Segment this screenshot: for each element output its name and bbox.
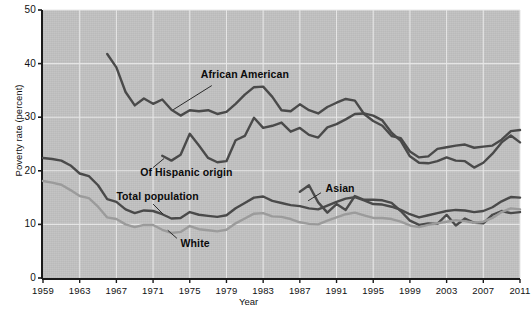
x-axis-title: Year — [239, 296, 258, 307]
y-tick-0: 0 — [2, 272, 36, 283]
series-lines — [43, 54, 520, 233]
series-label-white: White — [181, 237, 210, 249]
series-label-asian: Asian — [326, 182, 355, 194]
chart-canvas — [0, 0, 531, 315]
x-tick-2011: 2011 — [498, 285, 531, 296]
series-label-total-population: Total population — [116, 190, 198, 202]
y-axis-title: Poverty rate (percent) — [13, 66, 24, 196]
y-tick-50: 50 — [2, 4, 36, 15]
poverty-rate-chart: 01020304050 1959196319671971197519791983… — [0, 0, 531, 315]
series-label-hispanic: Of Hispanic origin — [140, 166, 232, 178]
y-tick-10: 10 — [2, 218, 36, 229]
gridlines — [43, 10, 520, 278]
series-label-african-american: African American — [201, 68, 289, 80]
